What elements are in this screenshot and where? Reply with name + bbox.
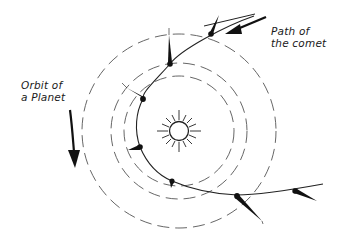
comet-path-label: Path of the comet (271, 25, 326, 49)
planet-orbit-label: Orbit of a Planet (21, 79, 65, 103)
comet-position-1 (208, 15, 219, 37)
planet-orbit-label-line1: Orbit of (21, 79, 65, 91)
comet-position-4 (128, 144, 143, 150)
comet-orbit-diagram: Path of the comet Orbit of a Planet (0, 0, 346, 247)
comet-position-7 (292, 188, 317, 201)
sun-icon (157, 110, 201, 152)
comet-position-6 (234, 193, 263, 224)
comet-position-5 (169, 178, 174, 188)
planet-orbit-label-line2: a Planet (21, 91, 65, 103)
orbit-direction-arrow-icon (68, 110, 80, 168)
comet-path-label-line1: Path of (271, 25, 326, 37)
comet-path-label-line2: the comet (271, 37, 326, 49)
